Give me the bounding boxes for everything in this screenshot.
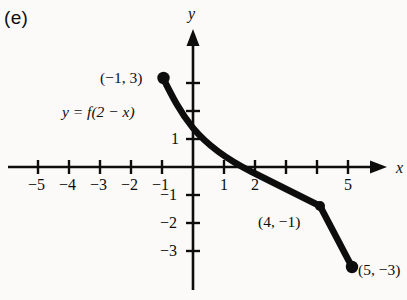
point-marker-start — [157, 72, 169, 84]
y-tick-label-neg2: −2 — [160, 215, 177, 231]
y-axis-label: y — [188, 6, 195, 22]
function-equation-text: y = f(2 − x) — [62, 103, 135, 120]
x-axis-arrowhead — [370, 161, 387, 174]
y-tick-label-1: 1 — [171, 131, 179, 147]
y-tick-label-neg3: −3 — [160, 243, 177, 259]
point-marker-end — [346, 261, 358, 273]
x-tick-label-pos2: 2 — [251, 177, 259, 193]
x-axis-label: x — [396, 160, 403, 176]
figure-canvas: (e) — [0, 0, 407, 300]
x-tick-label-neg2: −2 — [121, 177, 138, 193]
annotation-point-corner: (4, −1) — [258, 214, 300, 230]
line-segment — [320, 206, 352, 267]
point-marker-corner — [315, 201, 325, 211]
y-tick-label-neg1: −1 — [160, 187, 177, 203]
x-tick-label-neg3: −3 — [90, 177, 107, 193]
x-tick-label-neg4: −4 — [59, 177, 76, 193]
function-equation-label: y = f(2 − x) — [62, 104, 135, 120]
x-tick-label-neg5: −5 — [28, 177, 45, 193]
annotation-point-start: (−1, 3) — [100, 70, 142, 86]
curve-segment — [164, 79, 321, 206]
annotation-point-end: (5, −3) — [358, 262, 400, 278]
coordinate-plot — [0, 0, 407, 300]
y-axis-arrowhead — [187, 29, 200, 46]
x-tick-label-pos1: 1 — [220, 177, 228, 193]
x-tick-label-pos5: 5 — [344, 177, 352, 193]
